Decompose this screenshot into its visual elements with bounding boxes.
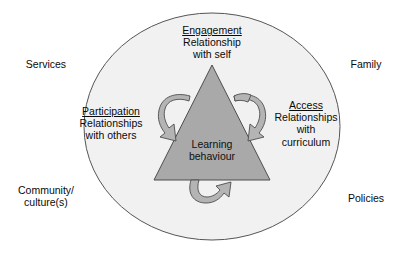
context-label-policies-text: Policies [348, 192, 384, 204]
context-label-policies: Policies [330, 192, 402, 204]
diagram-canvas: Services Family Community/ culture(s) Po… [0, 0, 409, 258]
core-label-line2: behaviour [166, 150, 258, 162]
node-engagement-heading: Engagement [160, 24, 264, 36]
node-access-line2: with [256, 123, 356, 135]
context-label-community: Community/ culture(s) [4, 184, 88, 208]
node-participation-line1: Relationships [58, 117, 164, 129]
context-label-family: Family [330, 58, 402, 70]
context-label-services-text: Services [26, 58, 66, 70]
context-label-community-line1: Community/ [4, 184, 88, 196]
node-participation-heading: Participation [58, 105, 164, 117]
node-participation-line2: with others [58, 129, 164, 141]
core-label-line1: Learning [166, 138, 258, 150]
node-engagement-line2: with self [160, 48, 264, 60]
node-access: Access Relationships with curriculum [256, 99, 356, 148]
context-label-family-text: Family [351, 58, 382, 70]
core-label-learning-behaviour: Learning behaviour [166, 138, 258, 162]
context-label-services: Services [8, 58, 84, 70]
node-engagement-line1: Relationship [160, 36, 264, 48]
node-participation: Participation Relationships with others [58, 105, 164, 142]
node-engagement: Engagement Relationship with self [160, 24, 264, 61]
node-access-line3: curriculum [256, 136, 356, 148]
node-access-line1: Relationships [256, 111, 356, 123]
node-access-heading: Access [256, 99, 356, 111]
context-label-community-line2: culture(s) [4, 196, 88, 208]
